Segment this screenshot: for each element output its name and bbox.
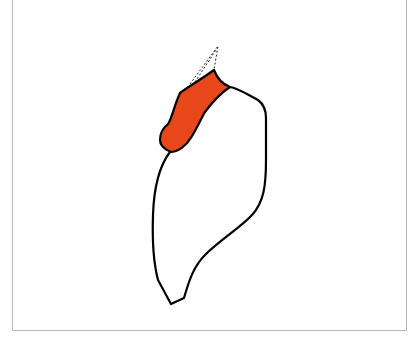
diagram-canvas [0,0,411,340]
